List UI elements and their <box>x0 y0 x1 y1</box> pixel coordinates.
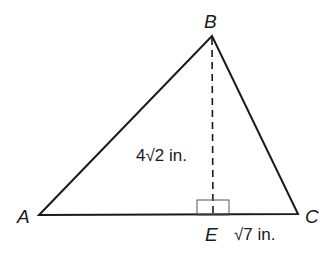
triangle-abc <box>39 36 298 215</box>
segment-ec-length-label: √7 in. <box>234 226 275 243</box>
altitude-length-label: 4√2 in. <box>136 147 187 164</box>
vertex-label-b: B <box>204 12 217 31</box>
triangle-diagram <box>0 0 327 253</box>
vertex-label-a: A <box>17 207 30 226</box>
point-label-e: E <box>205 225 218 244</box>
altitude-be <box>212 38 213 215</box>
vertex-label-c: C <box>305 207 319 226</box>
